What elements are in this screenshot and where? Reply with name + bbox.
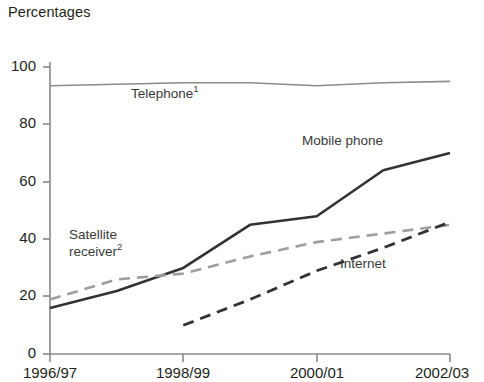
internet-label-text: Internet <box>340 256 386 271</box>
x-tick-label-1998-99: 1998/99 <box>135 364 231 381</box>
satellite-receiver-series-label: Satellite receiver2 <box>69 227 122 259</box>
chart-plot-area <box>0 0 484 382</box>
y-tick-label-60: 60 <box>2 172 36 189</box>
y-tick-label-100: 100 <box>2 57 36 74</box>
series-line-telephone <box>50 81 450 85</box>
x-tick-label-2002-03: 2002/03 <box>400 364 484 381</box>
satellite-label-line1: Satellite <box>69 227 117 242</box>
satellite-footnote-marker: 2 <box>117 241 122 252</box>
y-tick-label-40: 40 <box>2 229 36 246</box>
mobile-phone-label-text: Mobile phone <box>302 133 383 148</box>
y-tick-label-0: 0 <box>2 344 36 361</box>
x-tick-label-1996-97: 1996/97 <box>2 364 98 381</box>
internet-series-label: Internet <box>340 256 386 271</box>
series-line-internet <box>183 222 450 325</box>
satellite-label-line2: receiver <box>69 244 117 259</box>
y-tick-label-20: 20 <box>2 286 36 303</box>
telephone-series-label: Telephone1 <box>131 84 199 101</box>
mobile-phone-series-label: Mobile phone <box>302 133 383 148</box>
x-tick-label-2000-01: 2000/01 <box>269 364 365 381</box>
telephone-footnote-marker: 1 <box>193 83 198 94</box>
series-layer <box>50 81 450 325</box>
chart-container: Percentages 100 80 60 40 20 0 1996/97 19… <box>0 0 484 382</box>
y-tick-label-80: 80 <box>2 114 36 131</box>
telephone-label-text: Telephone <box>131 86 193 101</box>
